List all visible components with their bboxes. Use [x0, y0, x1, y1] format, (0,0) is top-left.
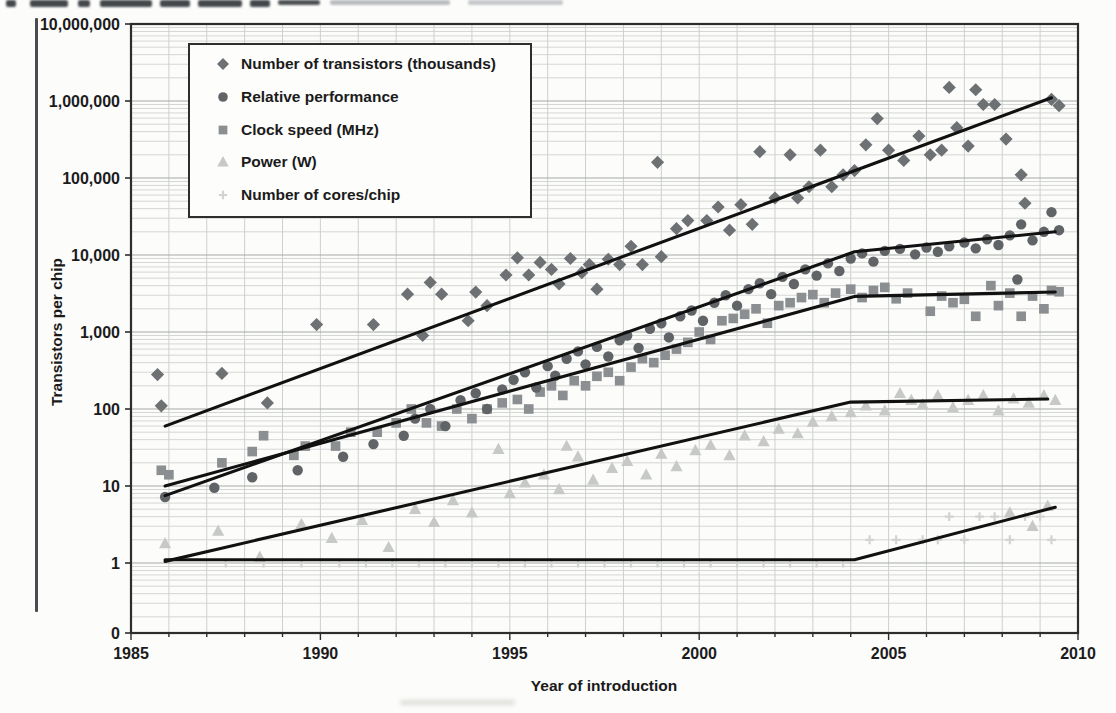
y-axis-title: Transistors per chip	[48, 258, 66, 406]
diamond-marker	[310, 318, 323, 331]
scanned-textbook-figure: 10,000,0001,000,000100,00010,0001,000100…	[0, 0, 1116, 713]
x-tick-label: 1985	[113, 645, 149, 662]
plus-marker	[865, 535, 874, 544]
diamond-marker	[977, 98, 990, 111]
diamond-marker	[651, 156, 664, 169]
triangle-marker	[826, 410, 838, 421]
x-tick-label: 1995	[492, 645, 528, 662]
square-marker	[603, 367, 613, 377]
triangle-marker	[670, 460, 682, 471]
square-marker	[592, 371, 602, 381]
plus-marker	[975, 512, 984, 521]
diamond-marker	[155, 399, 168, 412]
triangle-marker	[217, 156, 228, 167]
circle-icon	[214, 89, 232, 105]
square-marker	[513, 395, 523, 405]
triangle-marker	[587, 474, 599, 485]
triangle-icon	[214, 154, 232, 170]
triangle-marker	[606, 462, 618, 473]
triangle-marker	[1049, 394, 1061, 405]
circle-marker	[834, 266, 844, 276]
diamond-marker	[871, 112, 884, 125]
square-marker	[259, 431, 269, 441]
diamond-marker	[564, 252, 577, 265]
circle-marker	[993, 240, 1003, 250]
diamond-marker	[746, 218, 759, 231]
square-marker	[740, 309, 750, 319]
triangle-marker	[723, 449, 735, 460]
square-marker	[846, 284, 856, 294]
triangle-marker	[704, 439, 716, 450]
diamond-marker	[924, 148, 937, 161]
square-marker	[785, 298, 795, 308]
diamond-marker	[988, 98, 1001, 111]
diamond-marker	[969, 83, 982, 96]
diamond-marker	[435, 288, 448, 301]
triangle-marker	[504, 487, 516, 498]
diamond-marker	[217, 58, 229, 70]
plus-marker	[1047, 535, 1056, 544]
circle-marker	[440, 421, 450, 431]
circle-marker	[789, 279, 799, 289]
circle-marker	[471, 388, 481, 398]
circle-marker	[1046, 207, 1056, 217]
square-marker	[831, 288, 841, 298]
triangle-marker	[905, 394, 917, 405]
diamond-marker	[261, 396, 274, 409]
legend-label: Number of transistors (thousands)	[241, 55, 496, 73]
square-marker	[971, 311, 981, 321]
square-marker	[615, 376, 625, 386]
plus-marker	[960, 535, 969, 544]
legend: Number of transistors (thousands)Relativ…	[188, 43, 532, 218]
square-marker	[869, 286, 879, 296]
square-marker	[247, 447, 257, 457]
trend-line	[165, 399, 1048, 561]
square-marker	[717, 316, 727, 326]
y-tick-label: 1,000	[80, 324, 120, 341]
diamond-marker	[636, 258, 649, 271]
y-tick-label: 10,000,000	[40, 16, 120, 33]
square-marker	[986, 281, 996, 291]
triangle-marker	[326, 532, 338, 543]
diamond-marker	[401, 288, 414, 301]
diamond-marker	[545, 263, 558, 276]
square-marker	[728, 314, 738, 324]
square-marker	[694, 327, 704, 337]
diamond-marker	[753, 145, 766, 158]
x-tick-label: 2010	[1060, 645, 1096, 662]
circle-marker	[209, 483, 219, 493]
square-marker	[569, 376, 579, 386]
legend-label: Power (W)	[241, 153, 317, 171]
circle-marker	[633, 343, 643, 353]
square-marker	[497, 398, 507, 408]
diamond-marker	[590, 283, 603, 296]
triangle-marker	[640, 468, 652, 479]
triangle-marker	[572, 450, 584, 461]
y-tick-label: 1,000,000	[49, 93, 120, 110]
square-marker	[217, 458, 227, 468]
circle-marker	[1016, 219, 1026, 229]
diamond-marker	[712, 200, 725, 213]
square-marker	[808, 290, 818, 300]
circle-marker	[399, 431, 409, 441]
triangle-marker	[553, 483, 565, 494]
triangle-marker	[792, 427, 804, 438]
triangle-marker	[383, 541, 395, 552]
diamond-marker	[1015, 168, 1028, 181]
triangle-marker	[561, 440, 573, 451]
square-marker	[880, 283, 890, 293]
triangle-marker	[845, 406, 857, 417]
circle-marker	[698, 316, 708, 326]
x-axis-title: Year of introduction	[531, 677, 677, 695]
square-marker	[626, 362, 636, 372]
square-marker	[581, 381, 591, 391]
legend-label: Relative performance	[241, 88, 399, 106]
square-marker	[660, 350, 670, 360]
plus-marker	[892, 535, 901, 544]
circle-marker	[933, 247, 943, 257]
square-marker	[774, 301, 784, 311]
legend-item-triangle: Power (W)	[214, 153, 522, 171]
square-marker	[558, 391, 568, 401]
circle-marker	[664, 332, 674, 342]
square-marker	[948, 298, 958, 308]
